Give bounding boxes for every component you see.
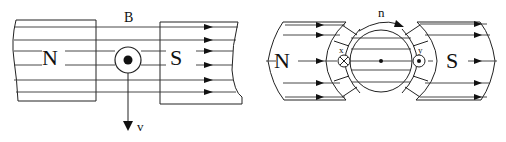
north-label-right: N <box>274 48 290 73</box>
velocity-label: v <box>137 119 144 134</box>
conductor-dot-icon <box>413 55 425 67</box>
left-figure: B N S v <box>13 10 242 134</box>
conductor-x-label: x <box>339 45 344 55</box>
conductor-dot-icon <box>115 47 141 73</box>
field-label: B <box>124 10 133 25</box>
south-label-right: S <box>446 48 458 73</box>
velocity-arrow <box>123 73 133 131</box>
south-label-left: S <box>170 45 182 70</box>
rotation-arrow <box>359 20 404 31</box>
conductor-cross-icon <box>338 55 350 67</box>
rotor <box>350 30 412 92</box>
right-figure: n N S x y <box>266 5 497 100</box>
north-label-left: N <box>42 45 58 70</box>
diagram-canvas: B N S v <box>0 0 506 142</box>
rotation-label: n <box>378 5 385 20</box>
conductor-y-label: y <box>418 45 423 55</box>
